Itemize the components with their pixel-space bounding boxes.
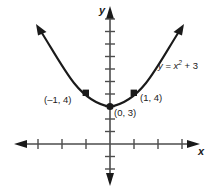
x-axis-label: x (198, 146, 204, 157)
equation-equals: = (163, 60, 174, 71)
y-axis-arrow-top (106, 6, 114, 19)
coordinate-plane-svg (0, 0, 212, 190)
point-label-0-3: (0, 3) (114, 108, 136, 118)
y-axis-label: y (99, 5, 105, 16)
equation-label: y = x2 + 3 (158, 61, 198, 71)
point-marker-0-3 (106, 103, 113, 110)
equation-tail: + 3 (182, 60, 198, 71)
y-axis-arrow-bottom (106, 173, 114, 186)
graph-figure: y x (–1, 4) (1, 4) (0, 3) y = x2 + 3 (0, 0, 212, 190)
x-axis-arrow-left (14, 140, 27, 148)
point-label-1-4: (1, 4) (140, 93, 162, 103)
point-label-neg1-4: (–1, 4) (44, 95, 71, 105)
point-marker-1-4 (131, 90, 137, 96)
curve-arrow-left (36, 24, 47, 36)
curve-arrow-right (174, 24, 185, 36)
point-marker-neg1-4 (83, 90, 89, 96)
